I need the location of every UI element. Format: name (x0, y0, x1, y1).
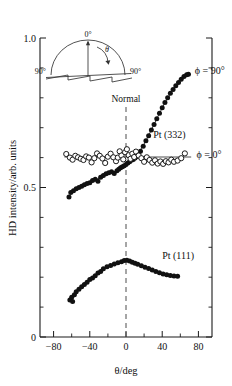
data-point (165, 95, 170, 100)
data-point (154, 116, 159, 121)
x-tick-label: 40 (157, 341, 167, 352)
series-data-points (64, 72, 191, 304)
data-point (146, 133, 151, 138)
data-point (179, 156, 184, 161)
figure-root: 00.51.0 −80−4004080 HD intensity/arb. un… (0, 0, 232, 386)
data-point (160, 105, 165, 110)
x-tick-label: 0 (124, 341, 129, 352)
phi0-label: ϕ = 0° (197, 149, 222, 160)
inset-zero-deg-label: 0° (84, 30, 91, 39)
y-tick-label: 1.0 (24, 33, 37, 44)
data-point (66, 195, 71, 200)
x-axis-title: θ/deg (114, 365, 138, 376)
inset-right-90-label: 90° (130, 67, 141, 76)
right-axis-major-ticks (206, 38, 212, 337)
inset-theta-label: θ (105, 45, 109, 54)
x-axis-tick-labels: −80−4004080 (46, 341, 204, 352)
data-point (86, 155, 91, 160)
x-tick-label: −80 (46, 341, 62, 352)
data-point (121, 157, 126, 162)
y-tick-label: 0 (31, 332, 36, 343)
inset-normal-arrowhead (86, 41, 90, 46)
reference-lines (64, 107, 191, 337)
data-point (70, 299, 75, 304)
data-point (103, 160, 108, 165)
y-axis-title: HD intensity/arb. units (7, 140, 18, 236)
inset-surface-line (46, 74, 131, 78)
y-tick-label: 0.5 (24, 182, 37, 193)
data-point (182, 151, 187, 156)
x-tick-label: 80 (193, 341, 203, 352)
normal-label: Normal (111, 94, 140, 104)
pt332-label: Pt (332) (153, 129, 186, 141)
data-point (175, 274, 180, 279)
y-axis-major-ticks (40, 38, 46, 337)
data-point (92, 156, 97, 161)
data-point (162, 100, 167, 105)
data-point (157, 111, 162, 116)
data-point (152, 122, 157, 127)
angle-geometry-inset: 0° θ 90° 90° (35, 30, 141, 82)
inset-theta-arrowhead (105, 60, 110, 65)
series-2-markers (67, 258, 180, 304)
data-point (186, 72, 191, 77)
axes-frame (40, 38, 212, 337)
y-axis-tick-labels: 00.51.0 (24, 33, 37, 343)
phi90-label: ϕ = 90° (195, 65, 225, 76)
data-point (141, 144, 146, 149)
inset-stepped-surface (46, 75, 132, 82)
series-trend-lines (69, 75, 188, 299)
data-point (143, 138, 148, 143)
chart-canvas: 00.51.0 −80−4004080 HD intensity/arb. un… (0, 0, 232, 386)
pt111-label: Pt (111) (162, 250, 194, 262)
data-point (124, 147, 129, 152)
x-tick-label: −40 (82, 341, 98, 352)
inset-left-90-label: 90° (35, 67, 46, 76)
